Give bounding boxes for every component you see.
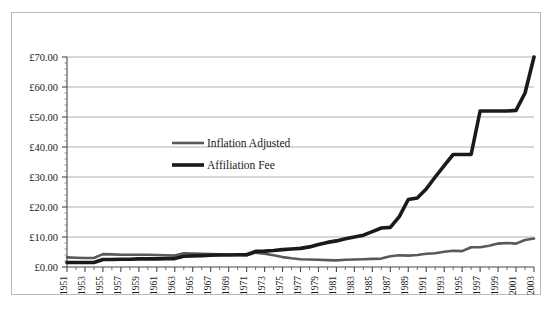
x-axis-group (67, 267, 534, 272)
x-tick-label: 1961 (149, 276, 159, 295)
chart-canvas: £0.00£10.00£20.00£30.00£40.00£50.00£60.0… (0, 0, 552, 320)
x-tick-label: 1993 (436, 276, 446, 295)
y-tick-label: £70.00 (29, 52, 58, 63)
x-tick-label: 1987 (382, 276, 392, 295)
y-tick-label: £30.00 (29, 172, 58, 183)
x-tick-label: 1955 (95, 276, 105, 295)
x-tick-label: 1951 (59, 276, 69, 295)
x-tick-label: 1997 (472, 276, 482, 295)
legend-label: Affiliation Fee (207, 159, 275, 171)
chart-container: £0.00£10.00£20.00£30.00£40.00£50.00£60.0… (0, 0, 552, 320)
x-tick-label: 1953 (77, 276, 87, 295)
legend-label: Inflation Adjusted (207, 137, 291, 150)
y-tick-label: £20.00 (29, 202, 58, 213)
x-tick-label: 1965 (185, 276, 195, 295)
series-lines-group (67, 57, 534, 263)
x-tick-label: 1979 (310, 276, 320, 295)
x-tick-label: 1973 (257, 276, 267, 295)
y-tick-label: £60.00 (29, 82, 58, 93)
x-tick-label: 1985 (364, 276, 374, 295)
y-tick-labels-group: £0.00£10.00£20.00£30.00£40.00£50.00£60.0… (29, 52, 58, 273)
x-tick-label: 2001 (508, 276, 518, 295)
x-tick-label: 1983 (346, 276, 356, 295)
y-tick-label: £50.00 (29, 112, 58, 123)
x-tick-label: 1981 (328, 276, 338, 295)
x-tick-label: 1999 (490, 276, 500, 295)
x-tick-label: 1969 (221, 276, 231, 295)
x-tick-label: 2003 (526, 276, 536, 295)
y-axis-group (62, 57, 67, 267)
x-tick-label: 1995 (454, 276, 464, 295)
x-tick-label: 1957 (113, 276, 123, 295)
x-tick-label: 1977 (293, 276, 303, 295)
x-tick-label: 1959 (131, 276, 141, 295)
x-tick-label: 1967 (203, 276, 213, 295)
y-tick-label: £40.00 (29, 142, 58, 153)
legend-group: Inflation AdjustedAffiliation Fee (172, 137, 291, 171)
x-tick-labels-group: 1951195319551957195919611963196519671969… (59, 276, 536, 295)
x-tick-label: 1971 (239, 276, 249, 295)
gridlines-group (67, 57, 534, 237)
x-tick-label: 1963 (167, 276, 177, 295)
x-tick-label: 1989 (400, 276, 410, 295)
x-tick-label: 1975 (275, 276, 285, 295)
y-tick-label: £0.00 (34, 262, 58, 273)
x-tick-label: 1991 (418, 276, 428, 295)
y-tick-label: £10.00 (29, 232, 58, 243)
series-line (67, 57, 534, 263)
